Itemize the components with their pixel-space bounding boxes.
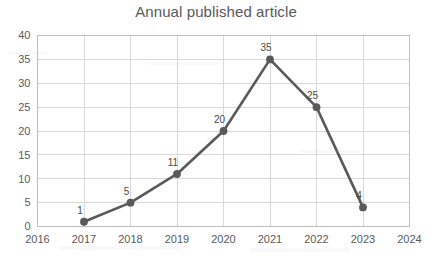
y-axis-tick-label: 40: [18, 29, 30, 41]
x-axis-tick-label: 2023: [351, 233, 375, 245]
data-point-label: 11: [168, 157, 179, 168]
y-axis-tick-label: 5: [24, 196, 30, 208]
line-chart-plot: 0510152025303540 20162017201820192020202…: [0, 0, 432, 261]
data-point-marker: [359, 204, 367, 212]
x-axis-tick-label: 2021: [258, 233, 282, 245]
y-axis-tick-label: 0: [24, 220, 30, 232]
x-axis-tick-label: 2016: [25, 233, 49, 245]
data-point-label: 5: [124, 186, 130, 197]
y-axis-tick-label: 20: [18, 125, 30, 137]
data-point-label: 4: [356, 190, 362, 201]
x-axis-tick-label: 2019: [165, 233, 189, 245]
data-point-marker: [173, 170, 181, 178]
y-axis-tick-label: 35: [18, 53, 30, 65]
x-axis-tick-label: 2017: [72, 233, 96, 245]
data-point-marker: [313, 103, 321, 111]
data-point-label: 35: [260, 42, 272, 53]
data-point-marker: [220, 127, 228, 135]
data-point-marker: [80, 218, 88, 226]
x-axis-tick-label: 2024: [397, 233, 421, 245]
chart-container: Annual published article 051015202530354…: [0, 0, 432, 261]
y-axis-tick-label: 15: [18, 149, 30, 161]
x-axis-tick-label: 2022: [304, 233, 328, 245]
data-point-labels: 15112035254: [77, 42, 362, 215]
data-point-label: 1: [77, 205, 83, 216]
y-axis-tick-labels: 0510152025303540: [18, 29, 30, 232]
y-axis-tick-label: 30: [18, 77, 30, 89]
x-axis-tick-label: 2018: [118, 233, 142, 245]
x-axis-tick-labels: 201620172018201920202021202220232024: [25, 233, 421, 245]
data-point-label: 20: [214, 114, 226, 125]
y-axis-tick-label: 25: [18, 101, 30, 113]
data-point-marker: [127, 199, 135, 207]
data-point-label: 25: [307, 90, 319, 101]
x-axis-tick-label: 2020: [211, 233, 235, 245]
data-point-marker: [266, 55, 274, 63]
y-axis-tick-label: 10: [18, 173, 30, 185]
